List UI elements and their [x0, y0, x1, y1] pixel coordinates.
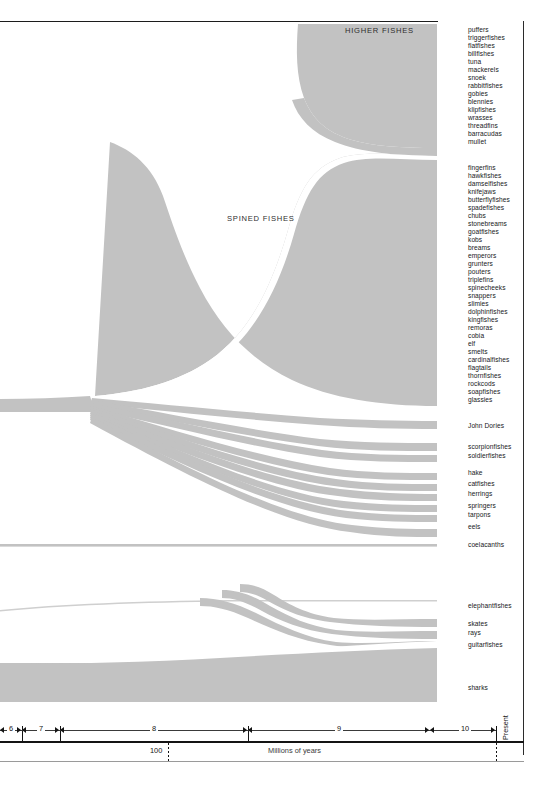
taxon-label: rabbitfishes [468, 82, 503, 89]
taxon-label: smelts [468, 348, 488, 355]
axis-arrow-left [430, 727, 434, 733]
taxon-label: soapfishes [468, 388, 500, 395]
taxon-label: slimies [468, 300, 489, 307]
taxon-label: eels [468, 523, 480, 530]
axis-arrow-right [243, 727, 247, 733]
taxon-label: triggerfishes [468, 34, 505, 41]
taxon-label: puffers [468, 26, 489, 33]
taxon-label: rockcods [468, 380, 495, 387]
taxon-label: soldierfishes [468, 452, 506, 459]
taxon-label: damselfishes [468, 180, 507, 187]
axis-segment-label: 10 [459, 724, 471, 733]
taxon-label: triplefins [468, 276, 493, 283]
taxon-label: dolphinfishes [468, 308, 508, 315]
axis-baseline-lower [0, 761, 524, 762]
taxon-label: spadefishes [468, 204, 504, 211]
axis-segment-label: 8 [150, 724, 158, 733]
taxon-label: emperors [468, 252, 497, 259]
taxon-label: John Dories [468, 422, 504, 429]
taxon-label: elf [468, 340, 475, 347]
figure-page: HIGHER FISHES SPINED FISHES pufferstrigg… [0, 0, 552, 791]
axis-arrow-left [248, 727, 252, 733]
axis-baseline [0, 741, 524, 743]
axis-dash-present [496, 743, 497, 761]
taxon-label: knifejaws [468, 188, 496, 195]
taxon-label: spinecheeks [468, 284, 506, 291]
taxon-label-column: pufferstriggerfishesflatfishesbillfishes… [468, 0, 552, 760]
taxon-label: stonebreams [468, 220, 507, 227]
axis-tick [496, 726, 497, 741]
taxon-label: mullet [468, 138, 486, 145]
taxon-label: butterflyfishes [468, 196, 510, 203]
taxon-label: gobies [468, 90, 488, 97]
taxon-label: cobia [468, 332, 484, 339]
taxon-label: flagtails [468, 364, 491, 371]
taxon-label: snoek [468, 74, 486, 81]
top-rule [0, 21, 438, 22]
taxon-label: kobs [468, 236, 482, 243]
taxon-label: pouters [468, 268, 491, 275]
taxon-label: fingerfins [468, 164, 496, 171]
taxon-label: catfishes [468, 480, 495, 487]
axis-label-100: 100 [150, 746, 162, 755]
taxon-label: barracudas [468, 130, 502, 137]
taxon-label: glassies [468, 396, 492, 403]
taxon-label: flatfishes [468, 42, 495, 49]
taxon-label: elephantfishes [468, 602, 512, 609]
axis-arrow-right [55, 727, 59, 733]
taxon-label: rays [468, 629, 481, 636]
taxon-label: blennies [468, 98, 493, 105]
taxon-label: goatfishes [468, 228, 499, 235]
axis-unit-label: Millions of years [268, 746, 321, 755]
axis-arrow-right [425, 727, 429, 733]
taxon-label: threadfins [468, 122, 498, 129]
taxon-label: skates [468, 620, 488, 627]
time-axis: 100 Millions of years Present 678910 [0, 712, 552, 791]
taxon-label: springers [468, 502, 496, 509]
band-spined-fishes [95, 142, 437, 406]
taxon-label: remoras [468, 324, 493, 331]
taxon-label: mackerels [468, 66, 499, 73]
taxon-label: thornfishes [468, 372, 501, 379]
axis-label-present: Present [501, 715, 510, 740]
taxon-label: sharks [468, 684, 488, 691]
axis-arrow-right [491, 727, 495, 733]
taxon-label: scorpionfishes [468, 443, 511, 450]
taxon-label: snappers [468, 292, 496, 299]
axis-segment-label: 6 [7, 724, 15, 733]
axis-arrow-left [22, 727, 26, 733]
taxon-label: grunters [468, 260, 493, 267]
band-coelacanths [0, 544, 437, 547]
axis-arrow-left [0, 727, 4, 733]
taxon-label: hawkfishes [468, 172, 501, 179]
taxon-label: hake [468, 469, 483, 476]
axis-arrow-right [17, 727, 21, 733]
taxon-label: breams [468, 244, 490, 251]
taxon-label: wrasses [468, 114, 493, 121]
caption-higher-fishes: HIGHER FISHES [345, 26, 414, 35]
taxon-label: tuna [468, 58, 481, 65]
taxon-label: klipfishes [468, 106, 496, 113]
taxon-label: herrings [468, 490, 492, 497]
taxon-label: cardinalfishes [468, 356, 509, 363]
caption-spined-fishes: SPINED FISHES [227, 214, 295, 223]
taxon-label: kingfishes [468, 316, 498, 323]
axis-segment-label: 7 [37, 724, 45, 733]
axis-arrow-left [60, 727, 64, 733]
axis-segment-label: 9 [335, 724, 343, 733]
taxon-label: guitarfishes [468, 641, 503, 648]
axis-dash-100 [168, 743, 169, 761]
taxon-label: billfishes [468, 50, 494, 57]
taxon-label: tarpons [468, 511, 491, 518]
taxon-label: chubs [468, 212, 486, 219]
band-trunk [0, 396, 95, 412]
taxon-label: coelacanths [468, 541, 504, 548]
